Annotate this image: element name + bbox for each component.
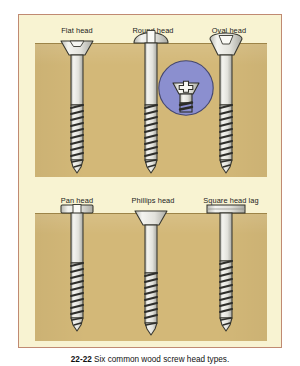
screw-square-head-lag <box>19 15 283 349</box>
square-head-lag-shank <box>220 213 232 261</box>
figure-frame: Flat head Round head Oval head <box>18 14 282 348</box>
figure-caption-number: 22-22 <box>71 355 92 364</box>
figure-caption: 22-22 Six common wood screw head types. <box>0 355 300 365</box>
square-head-lag-threads <box>220 261 232 318</box>
figure-panel: Flat head Round head Oval head <box>19 15 281 347</box>
phillips-magnifier-inset <box>157 59 215 117</box>
figure-caption-text: Six common wood screw head types. <box>94 355 229 364</box>
